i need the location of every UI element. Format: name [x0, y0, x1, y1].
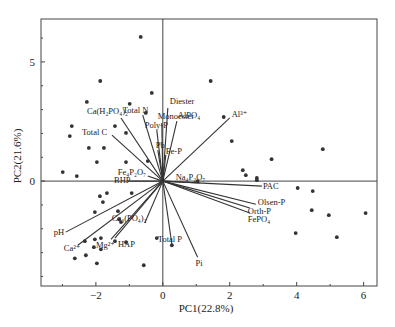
- score-point: [144, 111, 148, 115]
- score-point: [150, 91, 154, 95]
- score-point: [83, 239, 87, 243]
- score-point: [93, 210, 97, 214]
- score-point: [255, 178, 259, 182]
- score-point: [92, 245, 96, 249]
- score-point: [244, 173, 248, 177]
- score-point: [327, 213, 331, 217]
- score-point: [99, 236, 103, 240]
- x-tick-label: 2: [227, 289, 233, 301]
- score-point: [170, 243, 174, 247]
- loading-label: Na₄P₂O₇: [176, 172, 206, 182]
- score-point: [95, 261, 99, 265]
- score-point: [61, 170, 65, 174]
- score-points: [61, 35, 368, 267]
- score-point: [155, 236, 159, 240]
- score-point: [311, 189, 315, 193]
- score-point: [222, 115, 226, 119]
- score-point: [75, 174, 79, 178]
- score-point: [230, 139, 234, 143]
- score-point: [241, 168, 245, 172]
- loading-label: Al³⁺: [232, 109, 248, 119]
- score-point: [296, 186, 300, 190]
- loading-label: Ca₃(PO₄)₂: [112, 213, 147, 223]
- loading-label: pH: [54, 227, 64, 237]
- loading-label: Pi: [196, 258, 204, 268]
- x-axis-label: PC1(22.8%): [179, 302, 234, 315]
- score-point: [98, 194, 102, 198]
- x-tick-label: 4: [294, 289, 300, 301]
- score-point: [113, 239, 117, 243]
- score-point: [105, 191, 109, 195]
- score-point: [99, 247, 103, 251]
- loading-label: BHP: [114, 175, 131, 185]
- loading-label: Poly-P: [145, 120, 168, 130]
- loading-vector: Diester: [163, 96, 195, 181]
- loading-label: Mg²⁺: [96, 240, 115, 250]
- loading-label: FePO₄: [248, 214, 270, 224]
- loading-label: Total C: [82, 127, 107, 137]
- score-point: [119, 220, 123, 224]
- loading-label: PAC: [263, 181, 279, 191]
- score-point: [116, 209, 120, 213]
- loading-label: Ca(H₂PO₄)₂: [87, 106, 128, 116]
- score-point: [98, 79, 102, 83]
- score-point: [85, 100, 89, 104]
- score-point: [209, 79, 213, 83]
- score-point: [146, 159, 150, 163]
- y-tick-label: 5: [30, 56, 36, 68]
- x-tick-label: 0: [160, 289, 166, 301]
- score-point: [130, 191, 134, 195]
- score-point: [124, 131, 128, 135]
- loading-label: Ca²⁺: [64, 243, 80, 253]
- plot-frame: [41, 19, 377, 286]
- pca-biplot: −20246 05 DiesterMonoesterPoly-PTotal NC…: [0, 0, 395, 327]
- x-axis-ticks: −20246: [62, 282, 366, 301]
- score-point: [335, 235, 339, 239]
- score-point: [84, 253, 88, 257]
- score-point: [196, 179, 200, 183]
- x-tick-label: 6: [361, 289, 367, 301]
- score-point: [87, 146, 91, 150]
- score-point: [270, 157, 274, 161]
- score-point: [139, 35, 143, 39]
- x-tick-label: −2: [90, 289, 102, 301]
- zero-reference-lines: [41, 19, 377, 286]
- score-point: [364, 211, 368, 215]
- y-axis-ticks: 05: [30, 38, 46, 276]
- score-point: [113, 124, 117, 128]
- y-tick-label: 0: [30, 175, 36, 187]
- loading-label: Total P: [158, 234, 182, 244]
- loading-label: Diester: [170, 96, 195, 106]
- score-point: [124, 240, 128, 244]
- score-point: [102, 146, 106, 150]
- loading-vectors: DiesterMonoesterPoly-PTotal NCa(H₂PO₄)₂T…: [54, 96, 286, 268]
- score-point: [142, 263, 146, 267]
- y-axis-label: PC2(21.6%): [11, 128, 24, 183]
- score-point: [68, 134, 72, 138]
- loading-label: AlPO₄: [178, 110, 200, 120]
- score-point: [124, 160, 128, 164]
- score-point: [101, 200, 105, 204]
- loading-label: Fe-P: [166, 146, 182, 156]
- loading-vector: pH: [54, 181, 163, 237]
- loading-vector: Total P: [158, 181, 182, 244]
- score-point: [73, 256, 77, 260]
- score-point: [128, 102, 132, 106]
- loading-vector: Orth-P: [163, 181, 271, 216]
- score-point: [93, 237, 97, 241]
- score-point: [95, 160, 99, 164]
- score-point: [70, 124, 74, 128]
- score-point: [310, 208, 314, 212]
- score-point: [294, 231, 298, 235]
- loading-label: Pb: [156, 140, 165, 150]
- score-point: [321, 147, 325, 151]
